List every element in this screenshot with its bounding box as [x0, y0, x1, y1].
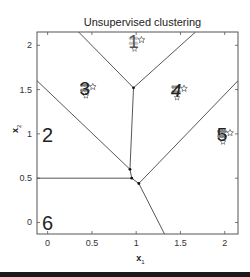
y-tick-label: 1.5	[19, 85, 32, 95]
decision-boundary	[139, 184, 165, 235]
x-tick-label: 1	[134, 238, 139, 248]
cluster-label-5: 5	[217, 124, 228, 145]
plot-frame	[37, 32, 238, 234]
boundary-vertex	[129, 168, 132, 171]
boundary-vertex	[132, 86, 135, 89]
star-marker	[138, 36, 145, 42]
star-marker	[181, 85, 188, 91]
cluster-label-6: 6	[42, 212, 53, 234]
y-axis-label: x2	[10, 124, 22, 133]
bottom-border	[0, 272, 250, 277]
y-tick-label: 2	[27, 40, 32, 50]
boundary-vertex	[137, 182, 140, 185]
cluster-label-2: 2	[42, 124, 53, 146]
chart-title: Unsupervised clustering	[84, 16, 201, 28]
cluster-label-4: 4	[171, 80, 182, 101]
cluster-label-3: 3	[80, 78, 91, 99]
clustering-plot: Unsupervised clustering00.511.5200.511.5…	[0, 0, 250, 277]
y-tick-label: 0	[27, 217, 32, 227]
x-axis-label: x1	[136, 253, 145, 265]
x-tick-label: 0.5	[86, 238, 99, 248]
star-marker	[90, 83, 97, 89]
decision-boundary	[130, 88, 134, 170]
x-tick-label: 2	[222, 238, 227, 248]
star-marker	[227, 129, 234, 135]
x-tick-label: 1.5	[174, 238, 187, 248]
x-tick-label: 0	[45, 238, 50, 248]
cluster-label-1: 1	[128, 31, 139, 52]
y-tick-label: 0.5	[19, 173, 32, 183]
boundary-vertex	[130, 177, 133, 180]
y-tick-label: 1	[27, 129, 32, 139]
